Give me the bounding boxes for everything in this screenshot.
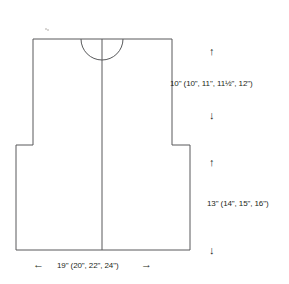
arrow-right-icon-body-width: →: [141, 259, 152, 270]
upper-body-length-label: 10" (10", 11", 11½", 12"): [170, 79, 253, 89]
scan-speck: [47, 29, 49, 31]
arrow-down-icon-lower-body: ↓: [209, 245, 215, 256]
arrow-left-icon-body-width: ←: [33, 259, 44, 270]
arrow-up-icon-lower-body: ↑: [209, 157, 215, 168]
body-width-label: 19" (20", 22", 24"): [57, 261, 119, 271]
arrow-up-icon-upper-body: ↑: [209, 46, 215, 57]
lower-body-length-label: 13" (14", 15", 16"): [207, 199, 269, 209]
arrow-down-icon-upper-body: ↓: [209, 110, 215, 121]
garment-outline-path: [16, 39, 190, 250]
garment-schematic-drawing: [0, 0, 289, 284]
